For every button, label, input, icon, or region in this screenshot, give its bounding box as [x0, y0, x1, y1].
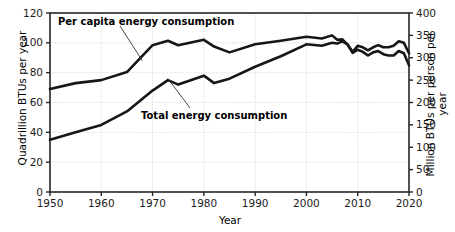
chart-canvas: 0204060801001200501001502002503003504001… — [0, 0, 455, 232]
svg-text:1970: 1970 — [139, 197, 166, 209]
svg-text:1990: 1990 — [242, 197, 269, 209]
svg-text:350: 350 — [416, 29, 436, 41]
energy-consumption-chart: 0204060801001200501001502002503003504001… — [0, 0, 455, 232]
svg-text:80: 80 — [30, 66, 43, 78]
svg-text:2020: 2020 — [396, 197, 423, 209]
svg-text:0: 0 — [36, 186, 43, 198]
svg-text:0: 0 — [416, 186, 423, 198]
svg-text:60: 60 — [30, 96, 43, 108]
svg-text:400: 400 — [416, 7, 436, 19]
svg-text:20: 20 — [30, 156, 43, 168]
svg-text:1980: 1980 — [190, 197, 217, 209]
svg-text:1950: 1950 — [37, 197, 64, 209]
svg-text:2010: 2010 — [344, 197, 371, 209]
svg-text:300: 300 — [416, 51, 436, 63]
svg-text:250: 250 — [416, 74, 436, 86]
svg-text:100: 100 — [23, 36, 43, 48]
svg-text:50: 50 — [416, 163, 429, 175]
svg-text:2000: 2000 — [293, 197, 320, 209]
svg-text:150: 150 — [416, 118, 436, 130]
chart-background — [0, 0, 455, 232]
svg-text:200: 200 — [416, 96, 436, 108]
svg-text:100: 100 — [416, 141, 436, 153]
svg-text:120: 120 — [23, 7, 43, 19]
svg-text:1960: 1960 — [88, 197, 115, 209]
svg-text:40: 40 — [30, 126, 43, 138]
